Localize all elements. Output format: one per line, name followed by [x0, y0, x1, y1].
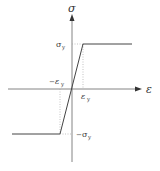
svg-text:ε: ε [55, 77, 59, 86]
epsilon-axis-label: ε [146, 83, 152, 96]
stress-strain-diagram: σ ε σ y − σ y ε y − ε y [0, 0, 160, 171]
sigma-y-label: σ y [56, 40, 66, 51]
sigma-axis-arrow-icon [70, 14, 75, 21]
svg-text:ε: ε [81, 92, 85, 101]
svg-text:y: y [61, 44, 66, 51]
svg-text:y: y [86, 96, 91, 103]
eps-y-label: ε y [81, 92, 91, 103]
neg-sigma-y-label: − σ y [76, 130, 92, 141]
sigma-axis-label: σ [68, 2, 76, 15]
neg-eps-y-label: − ε y [49, 77, 65, 88]
svg-text:y: y [87, 134, 92, 141]
epsilon-axis-arrow-icon [135, 87, 142, 92]
svg-text:y: y [60, 81, 65, 88]
